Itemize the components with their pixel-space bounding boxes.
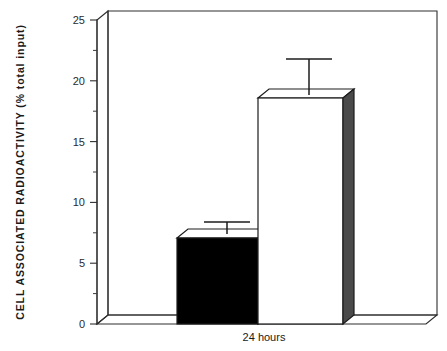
bar-chart-canvas: 0 5 10 15 20 25 CELL ASSOCIATED RADIOACT… — [0, 0, 447, 351]
bar-white-side-face — [343, 89, 354, 324]
y-tick-label-5: 5 — [79, 257, 85, 269]
bar-black-top-face — [177, 229, 269, 238]
plot-left-wall — [97, 11, 108, 324]
y-tick-label-25: 25 — [73, 14, 85, 26]
bar-black — [177, 229, 269, 324]
y-axis-title: CELL ASSOCIATED RADIOACTIVITY (% total i… — [14, 24, 26, 320]
x-axis-label: 24 hours — [243, 331, 286, 343]
y-tick-label-20: 20 — [73, 75, 85, 87]
bar-white-top-face — [258, 89, 354, 98]
y-tick-label-0: 0 — [79, 318, 85, 330]
y-tick-label-15: 15 — [73, 136, 85, 148]
bar-white-front-face — [258, 98, 343, 324]
bar-white — [258, 89, 354, 324]
y-axis-ticks — [90, 20, 97, 324]
y-axis-tick-labels: 0 5 10 15 20 25 — [73, 14, 85, 330]
y-tick-label-10: 10 — [73, 196, 85, 208]
chart-figure: 0 5 10 15 20 25 CELL ASSOCIATED RADIOACT… — [0, 0, 447, 351]
bar-black-front-face — [177, 238, 258, 324]
